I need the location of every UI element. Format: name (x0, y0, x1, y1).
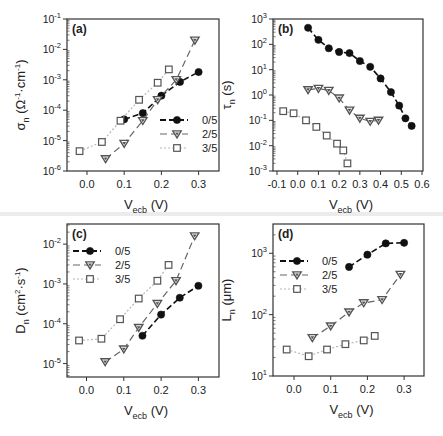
series-line-3-5 (283, 111, 347, 163)
x-tick-label: 0.3 (352, 178, 367, 190)
series-markers-2-5 (101, 37, 199, 163)
y-axis-label: τn (s) (219, 81, 237, 110)
y-axis-label: Dn (cm2·s-1) (13, 267, 31, 333)
legend-label: 0/5 (322, 255, 337, 267)
legend-label: 2/5 (115, 259, 130, 271)
y-axis-label: σn (Ω-1·cm-1) (13, 60, 31, 131)
legend-label: 0/5 (202, 114, 217, 126)
x-tick-label: -0.1 (268, 178, 287, 190)
chart-panel-d: 0.00.10.20.31011021030/52/53/5(d)Vecb (V… (219, 224, 424, 420)
series-line-0-5 (142, 286, 198, 336)
legend-label: 3/5 (322, 283, 337, 295)
legend: 0/52/53/5 (73, 245, 130, 285)
series-markers-0-5 (139, 282, 202, 339)
panel-label: (a) (72, 22, 87, 36)
x-tick-label: 0.3 (191, 178, 206, 190)
y-tick-label: 102 (251, 36, 267, 50)
x-tick-label: 0.2 (331, 178, 346, 190)
y-tick-label: 10-1 (249, 112, 267, 126)
x-tick-label: 0.4 (373, 178, 388, 190)
panel-label: (c) (72, 227, 87, 241)
y-tick-label: 10-2 (43, 41, 61, 55)
y-tick-label: 10-3 (43, 276, 61, 290)
y-tick-label: 10-1 (43, 11, 61, 25)
y-tick-label: 10-6 (43, 163, 61, 177)
x-tick-label: 0.1 (311, 178, 326, 190)
series-line-2-5 (106, 40, 195, 159)
series-markers-0-5 (304, 24, 415, 129)
series-markers-3-5 (280, 108, 351, 167)
y-tick-label: 101 (251, 62, 267, 76)
x-tick-label: 0.6 (414, 178, 429, 190)
chart-panel-b: -0.10.00.10.20.30.40.50.610-310-210-1100… (219, 11, 430, 215)
legend-label: 2/5 (322, 269, 337, 281)
chart-panel-a: 0.00.10.20.310-610-510-410-310-210-10/52… (13, 11, 219, 215)
y-tick-label: 10-5 (43, 356, 61, 370)
y-tick-label: 10-3 (249, 163, 267, 177)
x-axis-label: Vecb (V) (124, 403, 168, 421)
y-tick-label: 101 (251, 368, 267, 382)
series-markers-0-5 (345, 239, 407, 270)
x-tick-label: 0.0 (290, 178, 305, 190)
x-tick-label: 0.3 (191, 384, 206, 396)
series-line-0-5 (308, 28, 412, 126)
chart-panel-c: 0.00.10.20.310-510-410-310-20/52/53/5(c)… (13, 224, 219, 421)
y-tick-label: 10-3 (43, 72, 61, 86)
y-tick-label: 10-4 (43, 102, 61, 116)
plot-frame (273, 19, 423, 171)
x-tick-label: 0.5 (394, 178, 409, 190)
y-tick-label: 10-4 (43, 316, 61, 330)
y-axis-label: Ln (μm) (219, 279, 237, 322)
plot-frame (67, 224, 219, 377)
series-markers-0-5 (121, 68, 203, 123)
x-axis-label: Vecb (V) (329, 402, 373, 420)
series-line-0-5 (349, 243, 404, 267)
x-tick-label: 0.0 (79, 384, 94, 396)
x-tick-label: 0.1 (116, 384, 131, 396)
x-tick-label: 0.0 (79, 178, 94, 190)
x-tick-label: 0.2 (360, 383, 375, 395)
panel-label: (b) (278, 22, 293, 36)
plot-frame (273, 224, 424, 376)
y-tick-label: 10-2 (43, 236, 61, 250)
y-tick-label: 10-2 (249, 138, 267, 152)
x-tick-label: 0.0 (286, 383, 301, 395)
legend: 0/52/53/5 (280, 255, 337, 295)
y-tick-label: 100 (251, 87, 267, 101)
x-tick-label: 0.1 (117, 178, 132, 190)
x-tick-label: 0.2 (153, 384, 168, 396)
legend: 0/52/53/5 (160, 114, 217, 154)
legend-label: 3/5 (115, 273, 130, 285)
y-tick-label: 103 (251, 245, 267, 259)
legend-label: 2/5 (202, 128, 217, 140)
figure-4-panel: 0.00.10.20.310-610-510-410-310-210-10/52… (0, 0, 443, 436)
legend-label: 0/5 (115, 245, 130, 257)
y-tick-label: 102 (251, 307, 267, 321)
legend-label: 3/5 (202, 142, 217, 154)
x-tick-label: 0.3 (396, 383, 411, 395)
panel-label: (d) (278, 227, 293, 241)
series-line-2-5 (308, 89, 378, 122)
x-axis-label: Vecb (V) (329, 197, 373, 215)
y-tick-label: 103 (251, 11, 267, 25)
series-markers-3-5 (283, 333, 378, 360)
x-axis-label: Vecb (V) (124, 197, 168, 215)
x-tick-label: 0.2 (154, 178, 169, 190)
series-markers-2-5 (304, 85, 383, 125)
y-tick-label: 10-5 (43, 133, 61, 147)
x-tick-label: 0.1 (323, 383, 338, 395)
